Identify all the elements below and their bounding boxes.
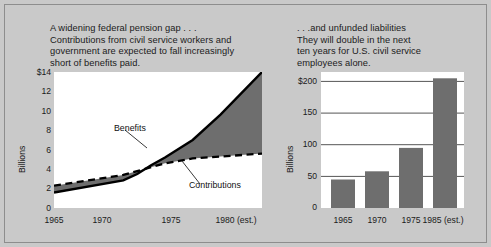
right-y-tick-200: $200 bbox=[287, 76, 317, 86]
bar-1985 bbox=[433, 78, 457, 208]
left-y-tick-0: 0 bbox=[23, 203, 51, 213]
right-x-tick-1985: 1985 (est.) bbox=[410, 215, 476, 225]
left-y-tick-6: 6 bbox=[23, 145, 51, 155]
right-y-tick-150: 150 bbox=[287, 107, 317, 117]
right-y-tick-0: 0 bbox=[287, 202, 317, 212]
bar-1975 bbox=[399, 148, 423, 208]
bar-1970 bbox=[365, 171, 389, 208]
figure-border: A widening federal pension gap . . . Con… bbox=[4, 4, 487, 243]
left-x-tick-1980: 1980 (est.) bbox=[203, 215, 269, 225]
contributions-series-label: Contributions bbox=[189, 180, 241, 190]
bar-1965 bbox=[331, 180, 355, 209]
pension-gap-shaded-region bbox=[54, 72, 262, 193]
left-x-tick-1975: 1975 bbox=[149, 215, 193, 225]
left-y-tick-8: 8 bbox=[23, 125, 51, 135]
benefits-series-label: Benefits bbox=[114, 123, 146, 133]
left-y-tick-10: 10 bbox=[23, 106, 51, 116]
right-chart-plot-area bbox=[321, 72, 464, 208]
figure-container: A widening federal pension gap . . . Con… bbox=[0, 0, 491, 247]
right-chart-svg bbox=[321, 72, 464, 208]
right-chart-panel: . . .and unfunded liabilities They will … bbox=[277, 5, 488, 244]
left-x-tick-1970: 1970 bbox=[80, 215, 124, 225]
right-chart-caption: . . .and unfunded liabilities They will … bbox=[297, 23, 487, 69]
left-y-tick-12: 12 bbox=[23, 86, 51, 96]
left-y-tick-4: 4 bbox=[23, 164, 51, 174]
left-y-tick-2: 2 bbox=[23, 183, 51, 193]
left-chart-panel: A widening federal pension gap . . . Con… bbox=[5, 5, 277, 244]
right-y-tick-50: 50 bbox=[287, 171, 317, 181]
left-y-tick-14: $14 bbox=[23, 67, 51, 77]
left-x-tick-1965: 1965 bbox=[32, 215, 76, 225]
left-chart-caption: A widening federal pension gap . . . Con… bbox=[50, 23, 275, 69]
right-chart-y-axis-label: Billions bbox=[285, 146, 295, 173]
right-y-tick-100: 100 bbox=[287, 139, 317, 149]
